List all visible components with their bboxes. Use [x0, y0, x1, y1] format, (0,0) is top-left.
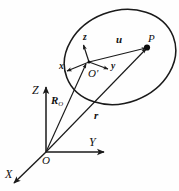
z-axis-local-line [84, 45, 90, 62]
global-origin-label: O [42, 155, 50, 166]
vector-u-label: u [116, 34, 122, 45]
point-p-label: P [148, 33, 155, 44]
y-axis-label: Y [89, 136, 96, 148]
point-p-dot [144, 44, 150, 50]
vector-r0-subscript: O [58, 100, 63, 107]
z-axis-local-label: z [83, 33, 87, 43]
vector-r-label: r [94, 110, 98, 121]
x-axis-local-line [67, 62, 89, 71]
y-axis-local-label: y [111, 62, 115, 72]
x-axis-label: X [5, 168, 12, 180]
vector-u-line [89, 48, 146, 62]
vector-diagram-figure: Z Y X O z y x O' P RO r u [0, 0, 179, 191]
diagram-canvas [0, 0, 179, 191]
vector-r0-label: RO [51, 95, 63, 107]
local-origin-label: O' [88, 68, 98, 79]
local-origin-dot [88, 61, 91, 64]
x-axis-local-label: x [59, 62, 64, 72]
z-axis-label: Z [32, 84, 39, 96]
